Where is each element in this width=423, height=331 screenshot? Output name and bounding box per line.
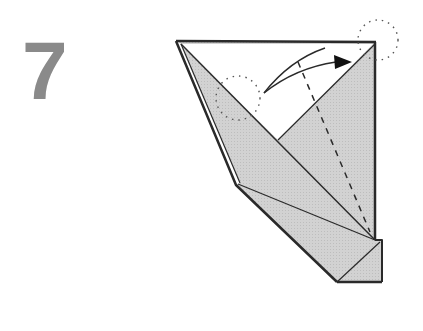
paper-body — [176, 41, 383, 282]
dotted-circle-marker-icon — [358, 20, 398, 60]
origami-diagram — [0, 0, 423, 331]
